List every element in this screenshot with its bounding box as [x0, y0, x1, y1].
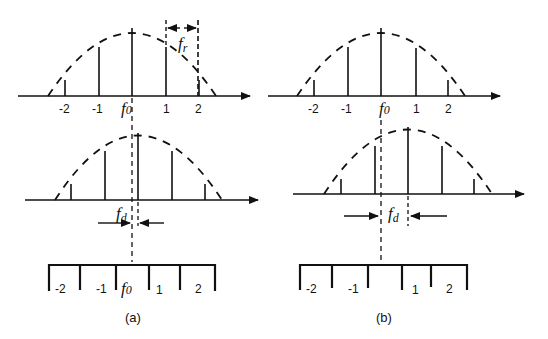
panel-b-filter-bank: -2 -1 1 2: [300, 264, 467, 297]
f0-label: f0: [379, 99, 390, 118]
tick-label: -1: [92, 102, 103, 116]
tick-label: -2: [59, 102, 70, 116]
bin-label: -1: [348, 282, 359, 296]
fd-label: fd: [116, 204, 128, 225]
tick-label: 1: [413, 102, 420, 116]
tick-label: 2: [445, 102, 452, 116]
bin-label: -2: [306, 282, 317, 296]
bin-label: 2: [195, 282, 202, 296]
tick-label: 1: [163, 102, 170, 116]
panel-a-filter-bank: -2 -1 f0 1 2: [49, 264, 215, 298]
panel-a-caption: (a): [125, 310, 141, 325]
panel-a-shifted-spectrum: fd: [25, 98, 258, 262]
bin-label: 1: [156, 283, 163, 297]
bin-label: -1: [96, 282, 107, 296]
tick-label: -1: [341, 102, 352, 116]
bin-label: 2: [446, 282, 453, 296]
tick-label: -2: [308, 102, 319, 116]
tick-label: 2: [195, 102, 202, 116]
panel-a: fr -2 -1 f0 1 2 fd: [18, 20, 258, 325]
panel-a-top-spectrum: fr -2 -1 f0 1 2: [18, 20, 250, 118]
fd-label: fd: [388, 204, 400, 225]
doppler-filter-diagram: fr -2 -1 f0 1 2 fd: [0, 0, 548, 339]
f0-label: f0: [121, 99, 132, 118]
bin-label: 1: [412, 283, 419, 297]
bin-label-f0: f0: [121, 279, 132, 298]
panel-b-shifted-spectrum: fd: [293, 120, 524, 264]
panel-b-caption: (b): [376, 310, 392, 325]
panel-b: -2 -1 f0 1 2 fd: [268, 28, 524, 325]
bin-label: -2: [55, 282, 66, 296]
panel-b-top-spectrum: -2 -1 f0 1 2: [268, 28, 500, 118]
fr-label: fr: [178, 34, 188, 55]
